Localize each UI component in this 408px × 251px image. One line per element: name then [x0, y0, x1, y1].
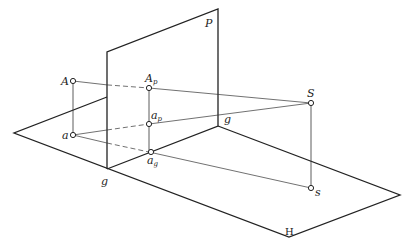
- label-P: P: [204, 17, 213, 30]
- ray-A-S: [73, 81, 311, 103]
- point-A: [70, 78, 75, 83]
- label-A: A: [60, 75, 69, 88]
- point-ap: [146, 121, 151, 126]
- point-s: [308, 185, 313, 190]
- point-a: [70, 132, 75, 137]
- label-Ap: Ap: [144, 72, 158, 86]
- label-g-front: g: [101, 175, 108, 188]
- label-s: s: [315, 186, 321, 199]
- ground-plane-h: [14, 97, 400, 237]
- point-S: [308, 100, 313, 105]
- label-a: a: [62, 129, 69, 142]
- label-g-back: g: [224, 113, 231, 126]
- label-ap: ap: [151, 109, 163, 123]
- point-Ap: [146, 85, 151, 90]
- perspective-projection-diagram: P H g g A a Ap ap ag S s: [0, 0, 408, 251]
- label-ag: ag: [147, 154, 159, 168]
- label-S: S: [307, 87, 315, 100]
- label-H: H: [285, 226, 294, 237]
- ray-a-s: [73, 135, 311, 188]
- ray-a-S: [73, 103, 311, 135]
